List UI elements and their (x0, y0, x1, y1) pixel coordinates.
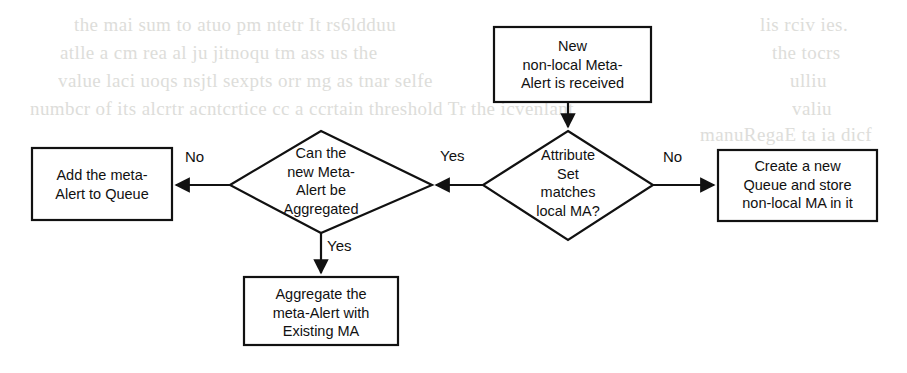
edge-label-aggregated-no: No (185, 148, 204, 165)
flowchart-page: the mai sum to atuo pm ntetr It rs6ldduu… (0, 0, 907, 373)
node-new-meta-alert-shape (494, 27, 651, 102)
edge-label-aggregated-yes: Yes (327, 237, 351, 254)
node-add-to-queue-shape (32, 148, 172, 220)
flowchart-canvas (0, 0, 907, 373)
node-can-be-aggregated-shape (230, 131, 432, 233)
node-attribute-set-matches-shape (483, 131, 653, 240)
edge-label-matches-yes: Yes (440, 147, 464, 164)
node-create-new-queue-shape (718, 150, 877, 221)
node-aggregate-with-existing-shape (244, 277, 398, 345)
edge-label-matches-no: No (663, 148, 682, 165)
